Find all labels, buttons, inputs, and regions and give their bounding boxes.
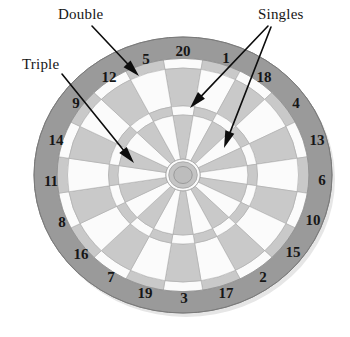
sector-number-3: 3 [180, 290, 188, 306]
sector-number-4: 4 [292, 95, 300, 111]
triple-segment-6[interactable] [247, 164, 257, 186]
sector-number-20: 20 [176, 43, 191, 59]
dartboard-graphic: 2011841361015217319716811149125 [0, 0, 350, 337]
annotation-label-triple: Triple [22, 56, 59, 73]
sector-number-12: 12 [102, 69, 117, 85]
sector-number-6: 6 [318, 172, 326, 188]
annotation-label-double: Double [58, 6, 103, 23]
sector-number-1: 1 [222, 50, 230, 66]
double-segment-11[interactable] [57, 157, 69, 193]
inner-bull[interactable] [174, 166, 192, 183]
sector-number-15: 15 [286, 244, 301, 260]
triple-segment-11[interactable] [109, 164, 119, 186]
double-segment-20[interactable] [163, 58, 202, 69]
sector-number-17: 17 [219, 285, 235, 301]
double-segment-6[interactable] [297, 157, 309, 193]
sector-number-8: 8 [58, 214, 66, 230]
triple-segment-20[interactable] [171, 106, 194, 116]
triple-segment-3[interactable] [171, 234, 194, 244]
sector-number-10: 10 [306, 212, 321, 228]
sector-number-16: 16 [74, 246, 90, 262]
sector-number-11: 11 [44, 173, 58, 189]
sector-number-19: 19 [138, 285, 153, 301]
sector-number-2: 2 [259, 269, 267, 285]
sector-number-9: 9 [72, 95, 80, 111]
sector-number-13: 13 [310, 132, 325, 148]
sector-number-18: 18 [257, 69, 272, 85]
sector-number-5: 5 [142, 51, 150, 67]
sector-number-7: 7 [107, 269, 115, 285]
sector-number-14: 14 [49, 132, 65, 148]
dartboard-figure: 2011841361015217319716811149125 Double T… [0, 0, 350, 337]
annotation-label-singles: Singles [258, 6, 304, 23]
